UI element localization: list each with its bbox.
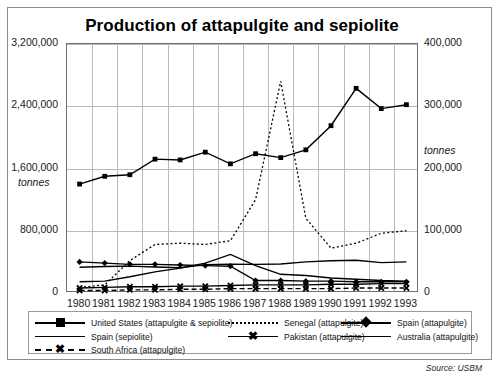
data-point-marker	[278, 155, 283, 160]
y-axis-left-unit: tonnes	[18, 176, 50, 188]
legend-symbol	[226, 317, 280, 329]
x-axis-tick-label: 1993	[388, 297, 422, 309]
source-credit: Source: USBM	[426, 363, 482, 373]
y-axis-right-tick-label: 0	[424, 285, 430, 297]
data-point-marker	[354, 86, 359, 91]
legend-label: Spain (sepiolite)	[87, 332, 153, 342]
legend-square-marker-icon	[56, 318, 65, 327]
y-axis-right-tick-label: 200,000	[424, 161, 462, 173]
y-axis-left-tick-label: 0	[0, 285, 58, 297]
y-axis-left-tick-label: 800,000	[0, 223, 58, 235]
data-point-marker	[404, 102, 409, 107]
data-point-marker	[102, 174, 107, 179]
legend-item[interactable]: Australia (attapulgite)	[339, 330, 478, 344]
legend-symbol	[339, 317, 393, 329]
legend-symbol	[339, 331, 393, 343]
series-line	[80, 88, 407, 184]
legend-symbol: ✖	[226, 331, 280, 343]
y-axis-left-tick-label: 1,600,000	[0, 161, 58, 173]
data-point-marker	[253, 151, 258, 156]
legend-label: Spain (attapulgite)	[393, 318, 467, 328]
data-point-marker	[102, 260, 108, 266]
data-point-marker	[329, 123, 334, 128]
legend-item[interactable]: United States (attapulgite & sepiolite)	[33, 316, 232, 330]
chart-title: Production of attapulgite and sepiolite	[66, 16, 418, 36]
data-point-marker	[153, 157, 158, 162]
y-axis-left-tick-label: 2,400,000	[0, 98, 58, 110]
legend-label: United States (attapulgite & sepiolite)	[87, 318, 232, 328]
series-line	[80, 81, 407, 287]
data-point-marker	[76, 259, 82, 265]
legend-label: Australia (attapulgite)	[393, 332, 478, 342]
series-spain-attapulgite	[76, 259, 409, 285]
y-axis-left-tick-label: 3,200,000	[0, 36, 58, 48]
y-axis-right-tick-label: 400,000	[424, 36, 462, 48]
series-australia-attapulgite	[80, 254, 407, 281]
series-line	[80, 254, 407, 281]
legend-diamond-marker-icon	[360, 316, 371, 327]
series-layer	[67, 44, 419, 293]
legend-line-solid	[35, 336, 85, 338]
legend-x-marker-icon: ✖	[55, 343, 65, 355]
series-senegal-attapulgite	[80, 81, 407, 287]
data-point-marker	[178, 158, 183, 163]
legend-line-dotted	[228, 322, 278, 324]
series-united-states-attapulgite-sepiolite	[77, 86, 409, 187]
y-axis-right-tick-label: 100,000	[424, 223, 462, 235]
legend-line-solid	[341, 336, 391, 338]
data-point-marker	[303, 147, 308, 152]
data-point-marker	[77, 182, 82, 187]
legend-symbol: ✖	[33, 344, 87, 356]
legend-symbol	[33, 317, 87, 329]
plot-area	[66, 43, 418, 292]
legend-item[interactable]: ✖South Africa (attapulgite)	[33, 343, 185, 357]
chart-page: Production of attapulgite and sepiolite …	[0, 0, 500, 381]
data-point-marker	[228, 161, 233, 166]
data-point-marker	[404, 285, 409, 290]
data-point-marker	[127, 172, 132, 177]
legend-item[interactable]: Spain (attapulgite)	[339, 316, 467, 330]
data-point-marker	[379, 106, 384, 111]
y-axis-right-unit: tonnes	[424, 144, 456, 156]
legend-x-marker-icon: ✖	[248, 330, 258, 342]
legend-symbol	[33, 331, 87, 343]
legend-item[interactable]: Spain (sepiolite)	[33, 330, 153, 344]
chart-legend: United States (attapulgite & sepiolite)S…	[28, 311, 472, 354]
legend-label: South Africa (attapulgite)	[87, 345, 185, 355]
data-point-marker	[203, 150, 208, 155]
y-axis-right-tick-label: 300,000	[424, 98, 462, 110]
